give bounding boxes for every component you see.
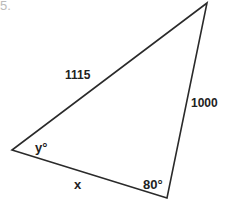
angle-label-80: 80°: [143, 177, 163, 192]
side-label-x: x: [74, 177, 82, 192]
angle-label-y: y°: [35, 140, 47, 155]
side-label-1115: 1115: [65, 68, 91, 82]
triangle-diagram: 5. 1115 1000 x y° 80°: [0, 0, 225, 201]
problem-number: 5.: [0, 0, 11, 13]
side-label-1000: 1000: [191, 96, 218, 110]
triangle: [12, 3, 207, 198]
